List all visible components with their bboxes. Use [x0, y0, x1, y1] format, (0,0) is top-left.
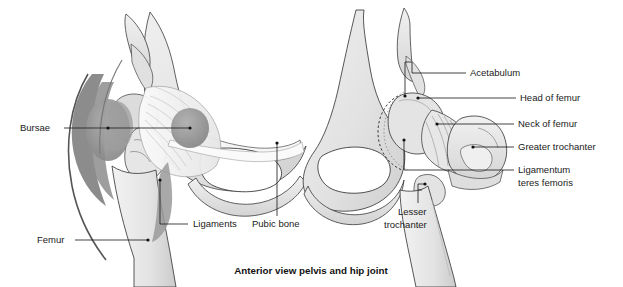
- leader-dot-bursa-a: [106, 126, 109, 129]
- figure-caption: Anterior view pelvis and hip joint: [234, 265, 388, 276]
- label-femur: Femur: [37, 234, 64, 245]
- label-neck-of-femur: Neck of femur: [518, 118, 577, 129]
- leader-dot-lesser-trochanter: [423, 182, 426, 185]
- leader-dot-neck-of-femur: [435, 122, 438, 125]
- label-ligaments: Ligaments: [193, 218, 237, 229]
- leader-dot-acetabulum: [403, 94, 406, 97]
- label-pubic-bone: Pubic bone: [252, 218, 300, 229]
- bursa-trochanteric-inner: [99, 101, 133, 151]
- label-lesser-trochanter-line1: Lesser: [398, 206, 427, 217]
- leader-dot-ligaments-a: [158, 178, 161, 181]
- leader-dot-ligamentum-teres: [402, 138, 405, 141]
- anatomy-figure: Bursae Femur Ligaments Pubic bone Acetab…: [0, 0, 623, 287]
- leader-dot-pubic-bone: [275, 141, 278, 144]
- label-greater-trochanter: Greater trochanter: [518, 141, 596, 152]
- leader-dot-head-of-femur: [416, 96, 419, 99]
- leader-dot-femur: [146, 238, 149, 241]
- label-ligamentum-teres-line2: teres femoris: [518, 177, 573, 188]
- leader-dot-greater-trochanter: [471, 145, 474, 148]
- obturator-foramen-right: [318, 147, 390, 193]
- label-bursae: Bursae: [20, 122, 50, 133]
- label-acetabulum: Acetabulum: [470, 67, 520, 78]
- label-head-of-femur: Head of femur: [520, 92, 580, 103]
- label-ligamentum-teres-line1: Ligamentum: [518, 164, 570, 175]
- label-lesser-trochanter-line2: trochanter: [384, 219, 427, 230]
